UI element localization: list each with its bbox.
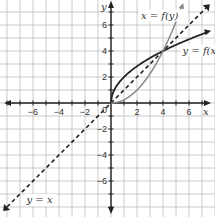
- y-tick-label: 4: [102, 46, 107, 56]
- curve-label: y = x: [26, 194, 53, 205]
- curve-arrow-icon: [204, 29, 211, 35]
- y-tick-label: −2: [97, 124, 107, 134]
- x-tick-label: −2: [80, 107, 90, 117]
- y-tick-label: 2: [102, 72, 107, 82]
- y-axis-arrow-down-icon: [108, 207, 114, 214]
- y-tick-label: −4: [97, 150, 107, 160]
- x-tick-label: 4: [160, 107, 165, 117]
- x-tick-label: 2: [134, 107, 139, 117]
- origin-label: 0: [102, 105, 107, 115]
- y-axis-arrow-up-icon: [108, 1, 114, 8]
- function-inverse-graph: −6−4−20246−6−4−2246yx x = f(y)y = f(x)y …: [0, 0, 215, 217]
- x-axis-label: x: [203, 106, 209, 117]
- curve-x-equals-f-y: [111, 8, 181, 103]
- x-tick-label: 6: [186, 107, 191, 117]
- y-tick-label: 6: [102, 20, 107, 30]
- curve-arrow-gray-icon: [179, 3, 185, 9]
- tick-labels: −6−4−20246−6−4−2246yx: [28, 1, 209, 186]
- y-axis-label: y: [100, 1, 107, 12]
- y-tick-label: −6: [97, 176, 107, 186]
- curve-label: y = f(x): [182, 45, 216, 56]
- x-tick-label: −6: [28, 107, 38, 117]
- curve-label: x = f(y): [141, 10, 179, 21]
- x-tick-label: −4: [54, 107, 64, 117]
- curve-y-equals-f-x: [111, 33, 206, 103]
